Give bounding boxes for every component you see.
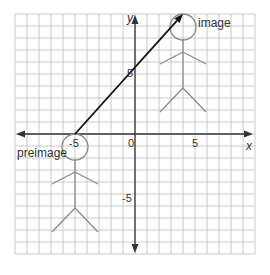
x-tick-5: 5 — [192, 138, 198, 149]
x-tick-neg5: -5 — [69, 138, 79, 149]
y-tick-5: 5 — [127, 68, 133, 79]
x-axis-label: x — [246, 140, 252, 152]
left-leg — [160, 88, 183, 112]
x-axis-arrow-right-icon — [244, 131, 253, 138]
y-axis-arrow-down-icon — [132, 244, 139, 253]
axes — [16, 15, 253, 253]
image-label: image — [198, 17, 231, 29]
x-axis-arrow-left-icon — [16, 131, 25, 138]
preimage-label: preimage — [17, 147, 67, 159]
coordinate-plane: y x -5 0 5 5 -5 preimage image — [0, 0, 270, 275]
y-tick-neg5: -5 — [122, 193, 132, 204]
y-axis-label: y — [127, 12, 133, 24]
right-leg — [75, 208, 98, 232]
right-leg — [183, 88, 206, 112]
plane-svg — [0, 0, 270, 275]
left-leg — [52, 208, 75, 232]
origin-label: 0 — [128, 138, 134, 149]
